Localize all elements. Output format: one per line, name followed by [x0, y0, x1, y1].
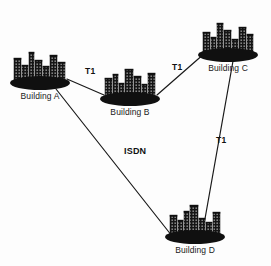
link-line	[67, 79, 104, 95]
building-roof	[170, 215, 178, 217]
building-base-ellipse	[198, 48, 258, 62]
links-layer	[56, 53, 233, 236]
building-roof	[232, 39, 239, 41]
building-roof	[211, 37, 217, 39]
building-roof	[119, 83, 125, 85]
building-roof	[58, 62, 66, 64]
link-label-link-c-d: T1	[216, 136, 226, 145]
node-building-a[interactable]	[10, 52, 70, 90]
building-roof	[213, 212, 221, 214]
building-base-ellipse	[100, 92, 160, 106]
building-roof	[239, 27, 247, 29]
building-roof	[224, 30, 232, 32]
building-roof	[14, 58, 22, 60]
building-roof	[184, 211, 190, 213]
building-roof	[22, 65, 29, 67]
building-roof	[203, 32, 211, 34]
node-label-building-c: Building C	[208, 64, 248, 73]
building-base-ellipse	[10, 76, 70, 90]
building-roof	[105, 78, 113, 80]
link-line	[203, 61, 233, 230]
link-line	[157, 53, 205, 95]
link-label-link-b-c: T1	[172, 63, 182, 72]
building-roof	[199, 218, 206, 220]
building-roof	[134, 76, 142, 78]
link-link-a-b	[67, 79, 104, 95]
building-roof	[50, 55, 58, 57]
building-roof	[148, 73, 156, 75]
node-building-c[interactable]	[198, 23, 258, 62]
network-diagram-canvas: T1T1T1ISDNBuilding ABuilding BBuilding C…	[0, 0, 271, 266]
building-roof	[29, 52, 35, 54]
node-building-b[interactable]	[100, 69, 160, 106]
building-roof	[178, 220, 184, 222]
link-link-b-c	[157, 53, 205, 95]
node-building-d[interactable]	[165, 205, 225, 244]
link-label-link-a-d: ISDN	[124, 147, 146, 156]
building-roof	[35, 60, 43, 62]
building-roof	[190, 205, 199, 207]
node-label-building-b: Building B	[110, 108, 149, 117]
node-label-building-a: Building A	[21, 92, 60, 101]
building-base-ellipse	[165, 230, 225, 244]
building-roof	[125, 69, 134, 71]
building-roof	[43, 66, 50, 68]
node-label-building-d: Building D	[175, 246, 215, 255]
building-roof	[206, 222, 213, 224]
building-roof	[113, 74, 119, 76]
link-link-c-d	[203, 61, 233, 230]
diagram-svg	[0, 0, 271, 266]
link-label-link-a-b: T1	[85, 67, 95, 76]
building-roof	[142, 84, 148, 86]
building-roof	[217, 23, 224, 25]
nodes-layer	[10, 23, 258, 244]
building-roof	[247, 34, 254, 36]
